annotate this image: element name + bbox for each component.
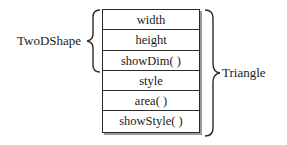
member-stack: width height showDim( ) style area( ) sh…: [102, 9, 200, 133]
member-area: area( ): [103, 91, 199, 111]
left-brace-icon: [87, 10, 100, 72]
triangle-label: Triangle: [222, 65, 266, 81]
member-showstyle: showStyle( ): [103, 111, 199, 131]
member-style: style: [103, 71, 199, 91]
member-showdim: showDim( ): [103, 51, 199, 71]
member-height: height: [103, 30, 199, 50]
member-width: width: [103, 10, 199, 30]
twodshape-label: TwoDShape: [17, 33, 81, 49]
right-brace-icon: [205, 10, 220, 136]
